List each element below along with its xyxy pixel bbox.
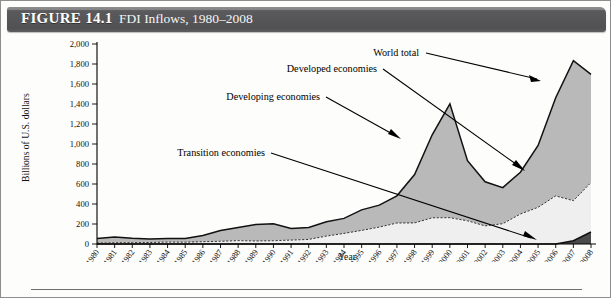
chart-container: 02004006008001,0001,2001,4001,6001,8002,… [7,34,606,262]
figure-number-label: FIGURE 14.1 [21,10,113,27]
x-tick-label: 1997 [384,248,401,262]
x-tick-label: 2001 [455,248,472,262]
annotation-developing-leader [326,97,396,136]
annotation-developing: Developing economies [226,91,401,139]
x-tick-label: 1984 [155,247,172,262]
y-tick-label: 0 [85,239,89,249]
y-axis-tick-labels: 02004006008001,0001,2001,4001,6001,8002,… [70,39,89,249]
x-tick-label: 1991 [278,248,295,262]
y-axis-title: Billions of U.S. dollars [20,93,31,182]
annotation-developed-label: Developed economies [287,63,377,74]
annotation-transition-label: Transition economies [177,147,265,158]
x-axis-title: Year [338,251,356,262]
y-tick-label: 200 [76,219,89,229]
y-tick-label: 1,400 [70,99,89,109]
fdi-inflows-area-chart: 02004006008001,0001,2001,4001,6001,8002,… [7,34,606,262]
figure-page: FIGURE 14.1 FDI Inflows, 1980–2008 02004… [0,0,611,298]
x-tick-label: 2000 [437,248,454,262]
x-tick-label: 1983 [137,248,154,262]
y-tick-label: 2,000 [70,39,89,49]
series-layer [97,61,591,244]
annotation-developed: Developed economies [287,63,525,171]
x-tick-label: 1980 [84,248,101,262]
x-tick-label: 2006 [543,248,560,262]
x-tick-label: 2003 [490,248,507,262]
y-tick-label: 600 [76,179,89,189]
figure-title: FDI Inflows, 1980–2008 [119,11,253,27]
x-tick-label: 2004 [508,247,525,262]
x-tick-label: 1985 [172,248,189,262]
x-tick-label: 1996 [366,248,383,262]
annotation-world-total-leader [426,53,537,79]
y-tick-label: 1,600 [70,79,89,89]
bottom-rule [31,289,582,290]
x-tick-label: 2008 [578,248,595,262]
annotation-developing-arrowhead [388,129,401,139]
x-tick-label: 1993 [314,248,331,262]
x-tick-label: 1992 [296,248,313,262]
x-tick-label: 1989 [243,248,260,262]
x-tick-label: 1987 [208,248,225,262]
x-tick-label: 1988 [225,248,242,262]
x-tick-label: 1982 [119,248,136,262]
x-tick-label: 2002 [472,248,489,262]
y-tick-label: 400 [76,199,89,209]
y-tick-label: 800 [76,159,89,169]
x-tick-label: 1998 [402,248,419,262]
figure-header-bar: FIGURE 14.1 FDI Inflows, 1980–2008 [7,7,606,32]
x-tick-label: 2007 [561,248,578,262]
annotation-world-total-label: World total [373,47,419,58]
y-tick-label: 1,200 [70,119,89,129]
x-tick-label: 2005 [525,248,542,262]
developed-economies-band [97,61,591,243]
x-tick-label: 1986 [190,248,207,262]
annotation-developing-label: Developing economies [226,91,320,102]
y-axis-ticks [92,44,97,244]
y-tick-label: 1,800 [70,59,89,69]
y-tick-label: 1,000 [70,139,89,149]
annotation-world-total: World total [373,47,541,82]
x-tick-label: 1990 [261,248,278,262]
annotation-world-total-arrowhead [529,75,541,82]
annotation-developed-arrowhead [512,160,525,171]
x-tick-label: 1999 [419,248,436,262]
x-tick-label: 1981 [102,248,119,262]
